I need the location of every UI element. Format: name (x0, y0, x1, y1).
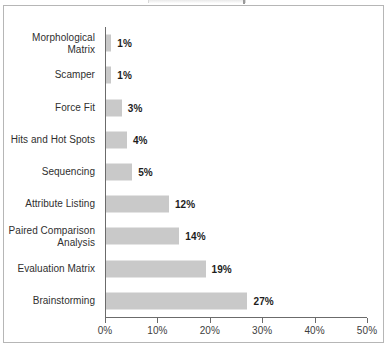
x-axis-tick-label: 0% (85, 325, 125, 336)
x-axis-tick (157, 318, 158, 323)
category-label-line: Brainstorming (5, 295, 95, 307)
category-label: Hits and Hot Spots (5, 134, 95, 146)
bar-chart-row: Brainstorming27% (4, 285, 383, 317)
bar (106, 131, 127, 148)
cutoff-element-marker (243, 0, 245, 4)
bar-value-label: 12% (175, 199, 195, 210)
bar-value-label: 3% (128, 102, 143, 113)
category-label-line: Attribute Listing (5, 198, 95, 210)
bar-chart-row: Force Fit3% (4, 91, 383, 123)
x-axis-tick-label: 10% (137, 325, 177, 336)
bar (106, 196, 169, 213)
bar-chart-row: Morphological Matrix1% (4, 27, 383, 59)
category-label-line: Hits and Hot Spots (5, 134, 95, 146)
bar-value-label: 14% (185, 231, 205, 242)
bar (106, 99, 122, 116)
bar-value-label: 1% (117, 70, 132, 81)
category-label: Attribute Listing (5, 198, 95, 210)
x-axis-tick-label: 20% (190, 325, 230, 336)
bar (106, 163, 132, 180)
x-axis-tick-label: 30% (242, 325, 282, 336)
x-axis-tick (210, 318, 211, 323)
bar-chart-row: Attribute Listing12% (4, 188, 383, 220)
bar-chart-plot-area: 0%10%20%30%40%50%Morphological Matrix1%S… (4, 6, 383, 342)
bar-chart-row: Sequencing5% (4, 156, 383, 188)
bar-value-label: 27% (253, 295, 273, 306)
category-label-line: Analysis (5, 236, 95, 248)
category-label: Scamper (5, 70, 95, 82)
screenshot-root: 0%10%20%30%40%50%Morphological Matrix1%S… (0, 0, 389, 348)
bar-value-label: 5% (138, 166, 153, 177)
category-label: Sequencing (5, 166, 95, 178)
category-label: Evaluation Matrix (5, 263, 95, 275)
bar-value-label: 1% (117, 38, 132, 49)
category-label-line: Sequencing (5, 166, 95, 178)
bar (106, 260, 206, 277)
category-label-line: Scamper (5, 70, 95, 82)
chart-frame: 0%10%20%30%40%50%Morphological Matrix1%S… (3, 5, 384, 343)
x-axis-tick (105, 318, 106, 323)
category-label: Brainstorming (5, 295, 95, 307)
category-label: Force Fit (5, 102, 95, 114)
bar (106, 292, 247, 309)
bar-chart-row: Evaluation Matrix19% (4, 253, 383, 285)
bar-chart-row: Paired ComparisonAnalysis14% (4, 220, 383, 252)
bar-value-label: 19% (212, 263, 232, 274)
category-label-line: Force Fit (5, 102, 95, 114)
x-axis-line (105, 317, 367, 318)
x-axis-tick-label: 50% (347, 325, 387, 336)
bar (106, 35, 111, 52)
x-axis-tick (367, 318, 368, 323)
bar-chart-row: Hits and Hot Spots4% (4, 124, 383, 156)
category-label: Paired ComparisonAnalysis (5, 225, 95, 248)
category-label-line: Morphological Matrix (5, 32, 95, 55)
cutoff-element-sliver (148, 0, 246, 3)
x-axis-tick (262, 318, 263, 323)
bar-value-label: 4% (133, 134, 148, 145)
category-label-line: Evaluation Matrix (5, 263, 95, 275)
category-label: Morphological Matrix (5, 32, 95, 55)
bar (106, 67, 111, 84)
bar-chart-row: Scamper1% (4, 59, 383, 91)
category-label-line: Paired Comparison (5, 225, 95, 237)
x-axis-tick-label: 40% (295, 325, 335, 336)
bar (106, 228, 179, 245)
x-axis-tick (315, 318, 316, 323)
